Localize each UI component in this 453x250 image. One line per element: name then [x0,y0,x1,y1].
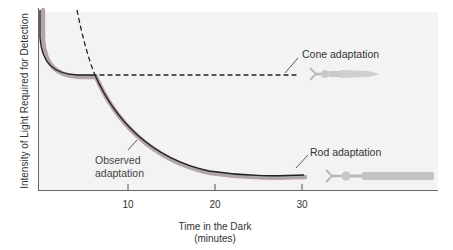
x-axis-units: (minutes) [194,233,236,244]
x-axis-label: Time in the Dark [179,221,253,232]
x-tick-label-30: 30 [296,199,308,210]
rod-adaptation-label: Rod adaptation [310,146,381,158]
y-axis-label: Intensity of Light Required for Detectio… [19,13,30,189]
observed-adaptation-label-2: adaptation [95,167,144,179]
x-tick-label-10: 10 [122,199,134,210]
observed-adaptation-label-1: Observed [95,154,141,166]
dark-adaptation-chart: 10 20 30 Time in the Dark (minutes) Inte… [0,0,453,250]
x-tick-label-20: 20 [209,199,221,210]
cone-adaptation-label: Cone adaptation [302,48,379,60]
